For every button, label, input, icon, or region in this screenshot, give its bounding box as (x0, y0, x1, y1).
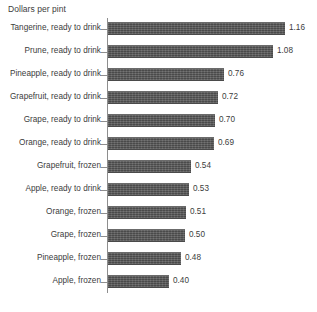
bar-row: Grapefruit, frozen0.54 (0, 156, 317, 179)
axis-tick (101, 75, 107, 76)
bar-value-label: 0.76 (228, 69, 244, 78)
bar (108, 206, 186, 219)
bar (108, 252, 181, 265)
bar-row: Apple, frozen0.40 (0, 271, 317, 294)
bar-value-label: 0.51 (190, 207, 206, 216)
axis-tick (101, 121, 107, 122)
axis-tick (101, 236, 107, 237)
category-label: Pineapple, frozen (0, 253, 101, 262)
axis-tick (101, 190, 107, 191)
category-label: Pineapple, ready to drink (0, 69, 101, 78)
bar-row: Grape, frozen0.50 (0, 225, 317, 248)
plot-area: Tangerine, ready to drink1.16Prune, read… (0, 18, 317, 306)
bar (108, 68, 224, 81)
bar-value-label: 0.48 (185, 253, 201, 262)
axis-tick (101, 282, 107, 283)
bar (108, 114, 215, 127)
bar-value-label: 0.72 (222, 92, 238, 101)
bar-row: Orange, ready to drink0.69 (0, 133, 317, 156)
bar-row: Grape, ready to drink0.70 (0, 110, 317, 133)
axis-tick (101, 213, 107, 214)
category-label: Grape, frozen (0, 230, 101, 239)
bar-value-label: 0.40 (173, 276, 189, 285)
axis-tick (101, 259, 107, 260)
category-label: Prune, ready to drink (0, 46, 101, 55)
category-label: Apple, ready to drink (0, 184, 101, 193)
category-label: Apple, frozen (0, 276, 101, 285)
bar (108, 160, 191, 173)
bar-value-label: 0.50 (189, 230, 205, 239)
bar-value-label: 1.16 (289, 23, 305, 32)
bar-value-label: 0.70 (219, 115, 235, 124)
axis-tick (101, 144, 107, 145)
bar-row: Pineapple, frozen0.48 (0, 248, 317, 271)
axis-tick (101, 167, 107, 168)
category-label: Grapefruit, ready to drink (0, 92, 101, 101)
bar (108, 91, 218, 104)
bar (108, 45, 273, 58)
bar (108, 22, 285, 35)
bar-chart: Dollars per pint Tangerine, ready to dri… (0, 0, 317, 312)
category-label: Grapefruit, frozen (0, 161, 101, 170)
bar (108, 229, 185, 242)
bar-row: Orange, frozen0.51 (0, 202, 317, 225)
category-label: Tangerine, ready to drink (0, 23, 101, 32)
axis-tick (101, 29, 107, 30)
axis-tick (101, 98, 107, 99)
chart-title: Dollars per pint (8, 4, 66, 14)
category-label: Orange, ready to drink (0, 138, 101, 147)
bar-value-label: 0.53 (193, 184, 209, 193)
bar-row: Grapefruit, ready to drink0.72 (0, 87, 317, 110)
bar-row: Tangerine, ready to drink1.16 (0, 18, 317, 41)
bar-value-label: 1.08 (277, 46, 293, 55)
bar-value-label: 0.54 (195, 161, 211, 170)
axis-tick (101, 52, 107, 53)
bar (108, 137, 214, 150)
bar-row: Pineapple, ready to drink0.76 (0, 64, 317, 87)
bar (108, 275, 169, 288)
category-label: Grape, ready to drink (0, 115, 101, 124)
bar-value-label: 0.69 (218, 138, 234, 147)
category-label: Orange, frozen (0, 207, 101, 216)
bar-row: Prune, ready to drink1.08 (0, 41, 317, 64)
bar-row: Apple, ready to drink0.53 (0, 179, 317, 202)
bar (108, 183, 189, 196)
